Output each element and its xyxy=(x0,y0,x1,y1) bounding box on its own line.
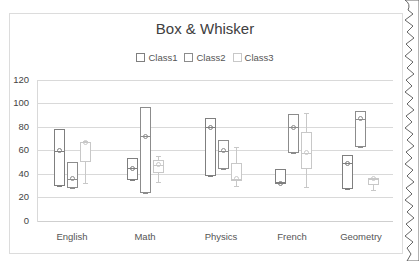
box-class2-physics xyxy=(218,140,229,169)
x-tick-label: French xyxy=(257,231,327,242)
legend: Class1 Class2 Class3 xyxy=(0,52,410,63)
whisker-cap xyxy=(358,147,363,148)
whisker-cap xyxy=(304,187,309,188)
box-class3-english xyxy=(80,142,91,162)
whisker-cap xyxy=(234,147,239,148)
legend-swatch-icon xyxy=(184,53,193,62)
whisker-cap xyxy=(156,156,161,157)
y-axis-line xyxy=(37,80,38,222)
box-class2-english xyxy=(67,162,78,188)
whisker-cap xyxy=(208,176,213,177)
whisker-cap xyxy=(70,188,75,189)
whisker-cap xyxy=(304,113,309,114)
x-tick-label: English xyxy=(37,231,107,242)
legend-label: Class2 xyxy=(196,52,225,63)
box-class2-french xyxy=(288,114,299,153)
mean-marker-icon xyxy=(278,181,283,186)
y-tick-label: 120 xyxy=(0,74,29,85)
whisker-cap xyxy=(57,186,62,187)
y-tick-label: 60 xyxy=(0,144,29,155)
whisker-cap xyxy=(371,190,376,191)
mean-marker-icon xyxy=(371,176,376,181)
legend-item-class2: Class2 xyxy=(184,52,225,63)
legend-item-class3: Class3 xyxy=(233,52,274,63)
mean-marker-icon xyxy=(57,148,62,153)
x-tick-label: Math xyxy=(110,231,180,242)
mean-marker-icon xyxy=(208,125,213,130)
mean-marker-icon xyxy=(291,125,296,130)
mean-marker-icon xyxy=(234,176,239,181)
x-tick-label: Geometry xyxy=(326,231,396,242)
mean-marker-icon xyxy=(143,134,148,139)
chart-title: Box & Whisker xyxy=(0,20,410,37)
whisker-cap xyxy=(234,186,239,187)
y-tick-label: 0 xyxy=(0,215,29,226)
legend-label: Class1 xyxy=(148,52,177,63)
whisker-cap xyxy=(143,193,148,194)
mean-marker-icon xyxy=(358,116,363,121)
gridline xyxy=(37,80,393,81)
whisker-cap xyxy=(291,153,296,154)
torn-edge-decoration xyxy=(395,0,419,261)
whisker-cap xyxy=(345,189,350,190)
x-tick-label: Physics xyxy=(186,231,256,242)
legend-item-class1: Class1 xyxy=(136,52,177,63)
legend-swatch-icon xyxy=(136,53,145,62)
y-tick-label: 40 xyxy=(0,168,29,179)
whisker-cap xyxy=(156,182,161,183)
mean-marker-icon xyxy=(221,148,226,153)
box-class2-math xyxy=(140,107,151,193)
whisker-cap xyxy=(130,180,135,181)
y-tick-label: 20 xyxy=(0,191,29,202)
y-tick-label: 80 xyxy=(0,121,29,132)
mean-marker-icon xyxy=(130,166,135,171)
legend-swatch-icon xyxy=(233,53,242,62)
mean-marker-icon xyxy=(83,140,88,145)
gridline xyxy=(37,103,393,104)
legend-label: Class3 xyxy=(245,52,274,63)
mean-marker-icon xyxy=(345,161,350,166)
whisker-cap xyxy=(83,183,88,184)
mean-marker-icon xyxy=(70,176,75,181)
whisker-cap xyxy=(221,169,226,170)
chart-image: Box & Whisker Class1 Class2 Class3 120 1… xyxy=(0,0,419,261)
mean-marker-icon xyxy=(156,162,161,167)
gridline xyxy=(37,197,393,198)
y-tick-label: 100 xyxy=(0,97,29,108)
x-axis-line xyxy=(37,221,393,222)
box-class1-english xyxy=(54,129,65,185)
mean-marker-icon xyxy=(304,150,309,155)
